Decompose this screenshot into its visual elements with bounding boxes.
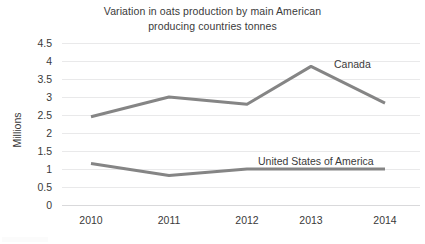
line-chart: Variation in oats production by main Ame… [0, 0, 425, 244]
x-tick-2014: 2014 [373, 214, 396, 226]
y-axis: Millions 0 0.5 1 1.5 2 2.5 3 3.5 4 4.5 [0, 0, 58, 244]
y-tick-4: 4 [46, 56, 52, 67]
x-tick-2011: 2011 [158, 214, 181, 226]
y-tick-4-5: 4.5 [37, 38, 52, 49]
chart-title-line-2: producing countries tonnes [0, 19, 425, 34]
y-tick-3: 3 [46, 92, 52, 103]
chart-title: Variation in oats production by main Ame… [0, 4, 425, 34]
x-tick-2010: 2010 [79, 214, 102, 226]
chart-title-line-1: Variation in oats production by main Ame… [0, 4, 425, 19]
y-tick-0-5: 0.5 [37, 182, 52, 193]
y-tick-2-5: 2.5 [37, 110, 52, 121]
x-axis-baseline [62, 205, 420, 206]
x-tick-2013: 2013 [299, 214, 322, 226]
y-tick-2: 2 [46, 128, 52, 139]
y-tick-1-5: 1.5 [37, 146, 52, 157]
y-tick-3-5: 3.5 [37, 74, 52, 85]
corner-artifact [2, 237, 48, 242]
x-tick-2012: 2012 [235, 214, 258, 226]
series-label-canada: Canada [334, 58, 371, 70]
y-tick-1: 1 [46, 164, 52, 175]
y-axis-title: Millions [11, 90, 23, 170]
y-tick-0: 0 [46, 200, 52, 211]
series-line-canada [91, 66, 385, 116]
x-axis: 2010 2011 2012 2013 2014 [62, 210, 420, 232]
series-label-united-states-of-america: United States of America [258, 155, 374, 167]
